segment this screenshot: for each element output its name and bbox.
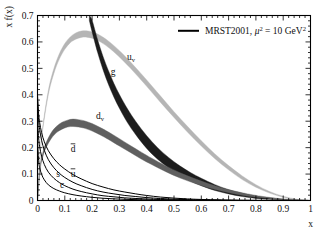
y-tick-label: 0.7	[22, 11, 34, 21]
curve-label-u-bar: u	[71, 169, 76, 179]
x-axis-title: x	[308, 219, 313, 229]
y-tick-label: 0.4	[22, 90, 34, 100]
x-tick-label: 0.6	[195, 204, 207, 214]
plot-canvas: 00.10.20.30.40.50.60.70.80.9100.10.20.30…	[0, 0, 323, 238]
x-tick-label: 0.2	[86, 204, 98, 214]
x-tick-label: 0.7	[223, 204, 235, 214]
x-tick-label: 0.5	[168, 204, 180, 214]
x-tick-label: 0.3	[113, 204, 125, 214]
y-axis-title: x f(x)	[4, 6, 15, 27]
y-tick-label: 0.3	[22, 117, 34, 127]
y-tick-label: 0.1	[22, 169, 34, 179]
curve-label-strange: s	[56, 169, 60, 179]
x-tick-label: 1	[308, 204, 313, 214]
pdf-figure: 00.10.20.30.40.50.60.70.80.9100.10.20.30…	[0, 0, 323, 238]
y-tick-label: 0.6	[22, 37, 34, 47]
curve-label-charm: c	[60, 180, 64, 190]
x-tick-label: 0.9	[277, 204, 289, 214]
x-tick-label: 0.1	[59, 204, 71, 214]
x-tick-label: 0	[35, 204, 40, 214]
y-tick-label: 0.2	[22, 143, 34, 153]
x-tick-label: 0.4	[141, 204, 153, 214]
x-tick-label: 0.8	[250, 204, 262, 214]
curve-label-d-bar: d	[71, 144, 76, 154]
y-tick-label: 0	[29, 196, 34, 206]
curve-label-gluon: g	[111, 67, 116, 77]
legend-label: MRST2001, μ2 = 10 GeV2	[205, 25, 306, 36]
y-tick-label: 0.5	[22, 64, 34, 74]
